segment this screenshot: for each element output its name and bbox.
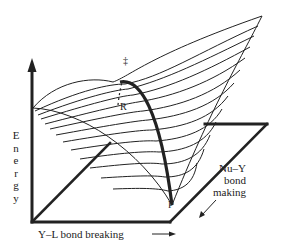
energy-surface-diagram	[0, 0, 284, 248]
floor-diagonal	[33, 143, 110, 221]
depth-label-line: making	[213, 186, 246, 198]
transition-state-label: ‡	[123, 56, 128, 66]
energy-axis-label: E n e r g y	[11, 129, 21, 204]
nuy-bond-making-label: Nu–Y bond making	[213, 162, 246, 198]
product-label: P	[168, 200, 174, 210]
reaction-path	[120, 82, 172, 205]
energy-letter: E	[11, 129, 21, 142]
energy-letter: g	[11, 179, 21, 192]
energy-axis-arrow-icon	[28, 58, 37, 72]
energy-letter: n	[11, 142, 21, 155]
energy-letter: r	[11, 167, 21, 180]
reactant-label: R	[120, 102, 127, 112]
depth-label-line: bond	[213, 174, 246, 186]
yl-bond-breaking-label: Y–L bond breaking	[38, 229, 124, 240]
depth-arrow-icon	[199, 200, 216, 218]
horizontal-arrow-icon	[152, 232, 176, 237]
energy-letter: e	[11, 154, 21, 167]
energy-letter: y	[11, 192, 21, 205]
depth-label-line: Nu–Y	[213, 162, 246, 174]
